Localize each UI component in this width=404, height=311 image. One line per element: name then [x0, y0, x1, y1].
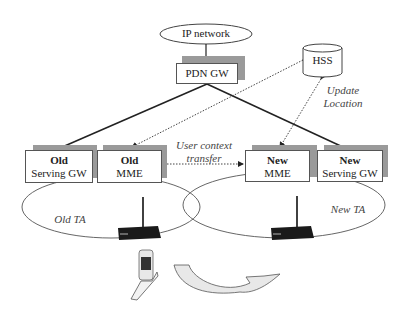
pdn-gw-label: PDN GW: [185, 67, 228, 79]
curved-arrow-icon: [174, 265, 280, 293]
pdn-gw-node: PDN GW: [176, 63, 238, 84]
router-icon: [118, 197, 161, 240]
old-serving-gw-node: Old Serving GW: [25, 150, 93, 183]
hss-new-mme-link: [280, 79, 321, 147]
new-serving-gw-node: New Serving GW: [317, 150, 383, 182]
hss-label: HSS: [303, 54, 342, 67]
new-ta-label: New TA: [323, 203, 373, 216]
old-ta-label: Old TA: [45, 213, 95, 226]
user-context-transfer-label: User context transfer: [164, 139, 244, 165]
mobile-phone-icon: [131, 250, 158, 300]
router-icon: [271, 196, 314, 240]
old-ta-area: [22, 176, 200, 238]
old-mme-node: Old MME: [97, 150, 162, 183]
update-location-label: Update Location: [318, 84, 368, 110]
new-mme-node: New MME: [245, 150, 310, 182]
ip-network-label: IP network: [160, 27, 252, 40]
